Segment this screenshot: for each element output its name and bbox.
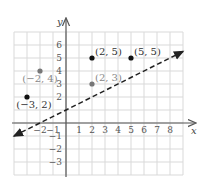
x-tick-label: 6 — [141, 125, 147, 135]
x-tick-label: 1 — [76, 125, 82, 135]
y-tick-label: −3 — [49, 157, 63, 167]
y-tick-label: 6 — [56, 40, 62, 50]
x-tick-label: 8 — [167, 125, 173, 135]
data-point — [89, 55, 94, 60]
y-tick-label: −2 — [49, 144, 62, 154]
y-tick-label: 2 — [56, 92, 62, 102]
x-tick-label: −2 — [33, 125, 46, 135]
x-tick-label: 2 — [89, 125, 95, 135]
y-tick-label: −1 — [49, 131, 62, 141]
data-point — [128, 55, 133, 60]
point-label: (−2, 4) — [22, 73, 57, 84]
data-point — [89, 81, 94, 86]
x-axis-label: x — [191, 125, 197, 136]
x-tick-label: 5 — [128, 125, 134, 135]
point-label: (5, 5) — [134, 46, 161, 57]
coordinate-plane: xy −2−112345678−3−2−123456 (2, 5)(5, 5)(… — [0, 0, 203, 184]
point-label: (2, 5) — [95, 46, 122, 57]
x-tick-label: 4 — [115, 125, 121, 135]
y-tick-label: 5 — [56, 53, 62, 63]
x-tick-label: 3 — [102, 125, 108, 135]
data-points: (2, 5)(5, 5)(−2, 4)(2, 3)(−3, 2) — [16, 46, 161, 110]
x-tick-label: 7 — [154, 125, 160, 135]
point-label: (−3, 2) — [16, 99, 51, 110]
point-label: (2, 3) — [95, 72, 122, 83]
y-axis-label: y — [56, 16, 63, 27]
tick-labels: −2−112345678−3−2−123456 — [33, 40, 173, 167]
